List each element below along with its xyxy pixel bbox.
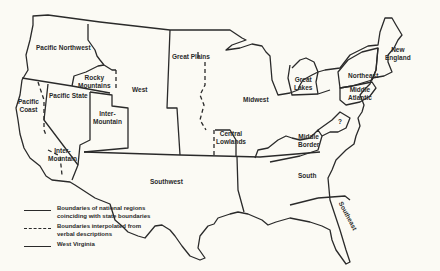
label-middle-border: Middle Border (298, 133, 319, 149)
label-pacific-coast: Pacific Coast (18, 98, 39, 114)
label-new-england-line1: New (385, 46, 411, 54)
label-new-england-line2: England (385, 54, 411, 62)
label-pacific-northwest: Pacific Northwest (36, 44, 91, 52)
label-middle-border-line2: Border (298, 141, 319, 149)
label-northeast: Northeast (348, 72, 378, 80)
legend-item-west-virginia: West Virginia (24, 241, 150, 249)
label-inter-mountain-south-line1: Inter- (48, 147, 77, 155)
label-middle-atlantic-line1: Middle (348, 86, 372, 94)
dashed-line-swatch (24, 228, 51, 229)
boundary-pnw-east (88, 24, 116, 70)
legend-text-interpolated: Boundaries interpolated from verbal desc… (57, 223, 141, 238)
label-pacific-coast-line1: Pacific (18, 98, 39, 106)
boundary-southwest-top (84, 152, 320, 157)
label-middle-border-line1: Middle (298, 133, 319, 141)
label-central-lowlands: Central Lowlands (216, 130, 246, 146)
dashed-great-plains (200, 62, 206, 130)
label-central-lowlands-line2: Lowlands (216, 138, 246, 146)
map-legend: Boundaries of national regions coincidin… (24, 205, 150, 252)
label-great-plains: Great Plains (172, 53, 210, 61)
label-rocky-line1: Rocky (78, 74, 111, 82)
label-pacific-state: Pacific State (49, 92, 88, 100)
boundary-pacific-state-bottom (72, 92, 90, 180)
solid-line-swatch (24, 246, 51, 247)
label-southwest: Southwest (150, 178, 183, 186)
legend-item-interpolated: Boundaries interpolated from verbal desc… (24, 223, 150, 238)
label-great-lakes-line1: Great (294, 76, 312, 84)
boundary-west-east (167, 30, 180, 155)
label-pacific-coast-line2: Coast (18, 106, 39, 114)
us-regions-map: Pacific Northwest Rocky Mountains West G… (0, 0, 440, 271)
label-west: West (132, 86, 147, 94)
boundary-panhandle (290, 198, 318, 205)
boundary-south-west (237, 157, 244, 212)
label-central-lowlands-line1: Central (216, 130, 246, 138)
label-inter-mountain-south: Inter- Mountain (48, 147, 77, 163)
label-rocky-mountains: Rocky Mountains (78, 74, 111, 90)
label-midwest: Midwest (243, 96, 269, 104)
solid-line-swatch (24, 210, 51, 211)
label-middle-atlantic: Middle Atlantic (348, 86, 372, 102)
legend-item-state-boundaries: Boundaries of national regions coincidin… (24, 205, 150, 220)
label-inter-mountain-north-line2: Mountain (93, 118, 122, 126)
label-great-lakes-line2: Lakes (294, 84, 312, 92)
label-west-virginia: ? (338, 118, 342, 126)
legend-text-line2: verbal descriptions (57, 231, 141, 239)
legend-text-west-virginia: West Virginia (57, 241, 95, 249)
label-great-lakes: Great Lakes (294, 76, 312, 92)
label-south: South (298, 172, 316, 180)
label-inter-mountain-north: Inter- Mountain (93, 110, 122, 126)
legend-text-line2: coinciding with state boundaries (57, 213, 150, 221)
label-new-england: New England (385, 46, 411, 62)
legend-text-state-boundaries: Boundaries of national regions coincidin… (57, 205, 150, 220)
label-middle-atlantic-line2: Atlantic (348, 94, 372, 102)
label-inter-mountain-south-line2: Mountain (48, 155, 77, 163)
legend-text-line1: Boundaries interpolated from (57, 223, 141, 231)
boundary-west-virginia (318, 112, 350, 136)
label-inter-mountain-north-line1: Inter- (93, 110, 122, 118)
boundary-southeast (318, 196, 350, 200)
legend-text-line1: Boundaries of national regions (57, 205, 150, 213)
label-rocky-line2: Mountains (78, 82, 111, 90)
